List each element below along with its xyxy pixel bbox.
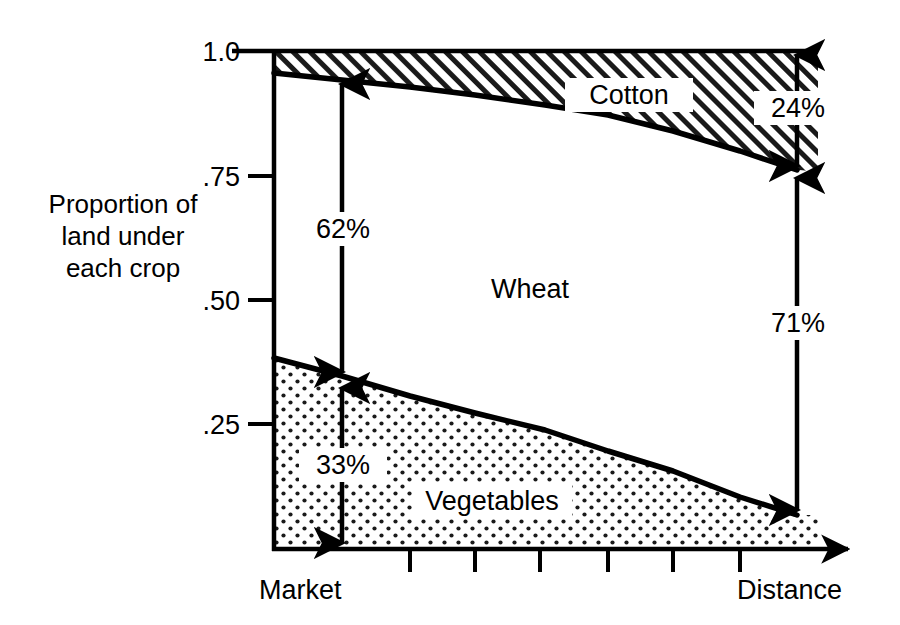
vegetables-label-group: Vegetables (412, 484, 572, 518)
annotation-71-label: 71% (771, 308, 825, 338)
cotton-label: Cotton (589, 80, 669, 110)
annotation-24-label: 24% (771, 93, 825, 123)
y-tick-label-1-0: 1.0 (202, 37, 240, 67)
y-axis-title-line-2: land under (28, 220, 218, 252)
chart-figure: Proportion of land under each crop (0, 0, 900, 625)
y-tick-label-0-50: .50 (202, 286, 240, 316)
y-axis-title-line-1: Proportion of (28, 188, 218, 220)
y-axis-title-line-3: each crop (28, 252, 218, 284)
y-tick-label-0-25: .25 (202, 410, 240, 440)
x-axis-end-label: Distance (737, 575, 842, 605)
annotation-33-label: 33% (316, 450, 370, 480)
vegetables-label: Vegetables (425, 486, 559, 516)
annotation-62-label: 62% (316, 214, 370, 244)
cotton-label-group: Cotton (565, 78, 693, 112)
y-tick-marks (248, 176, 274, 424)
x-tick-marks (410, 549, 740, 572)
chart-svg: 1.0 .75 .50 .25 Market Distance Cotton W… (0, 0, 900, 625)
x-axis-origin-label: Market (259, 575, 342, 605)
y-axis-title: Proportion of land under each crop (28, 188, 218, 284)
wheat-label: Wheat (491, 274, 570, 304)
